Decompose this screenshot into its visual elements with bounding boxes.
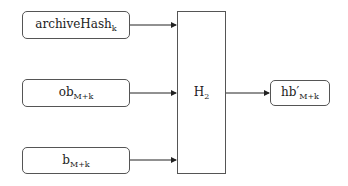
output-label: hb′M+k <box>281 85 319 101</box>
hash-function-box: H2 <box>177 11 226 174</box>
input-label-ob: obM+k <box>59 85 94 101</box>
input-label-b: bM+k <box>62 153 89 169</box>
input-box-ob: obM+k <box>22 79 130 107</box>
input-label-archivehash: archiveHashk <box>35 17 116 33</box>
input-box-archivehash: archiveHashk <box>22 11 130 39</box>
hash-function-label: H2 <box>194 85 210 101</box>
output-box: hb′M+k <box>270 80 330 106</box>
input-box-b: bM+k <box>22 147 130 174</box>
